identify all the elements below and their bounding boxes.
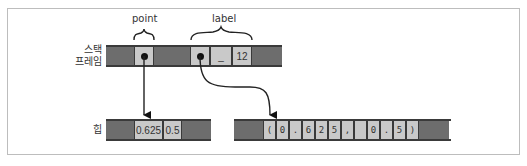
heap-label-char-cell: . [289, 121, 302, 139]
heap-cell-empty [106, 121, 134, 139]
heap-label-char-cell: 5 [328, 121, 341, 139]
stack-cell-point-pointer [134, 47, 154, 65]
heap-label-char-cell [354, 121, 367, 139]
stack-cell-empty [106, 47, 134, 65]
heap-label-char-cell: 2 [315, 121, 328, 139]
stack-frame-row: _ 12 [106, 45, 282, 67]
pointer-dot-icon [141, 53, 148, 60]
heap-cell-empty [419, 121, 449, 139]
stack-frame-label: 스택 프레임 [60, 44, 102, 68]
heap-label-char-cell: 5 [393, 121, 406, 139]
label-variable-label: label [212, 13, 236, 24]
point-variable-label: point [132, 13, 158, 24]
stack-frame-label-line1: 스택 [60, 44, 102, 56]
heap-label-char-cell: 6 [302, 121, 315, 139]
heap-label-char-cell: . [380, 121, 393, 139]
heap-row-label: (0.625, 0.5) [234, 119, 451, 141]
heap-label-char-cell: , [341, 121, 354, 139]
pointer-dot-icon [197, 53, 204, 60]
stack-cell-empty [252, 47, 282, 65]
stack-cell-label-capacity: _ [210, 47, 232, 65]
heap-cell-point-x: 0.625 [134, 121, 163, 139]
heap-cell-empty [234, 121, 263, 139]
heap-row-point: 0.625 0.5 [106, 119, 211, 141]
stack-cell-empty [154, 47, 190, 65]
heap-label: 힙 [60, 124, 102, 136]
heap-cell-empty [182, 121, 211, 139]
stack-cell-label-length: 12 [232, 47, 252, 65]
heap-cell-point-y: 0.5 [163, 121, 182, 139]
heap-label-char-cell: 0 [367, 121, 380, 139]
stack-frame-label-line2: 프레임 [60, 56, 102, 68]
heap-label-char-cell: ( [263, 121, 276, 139]
heap-label-string: (0.625, 0.5) [263, 121, 419, 139]
heap-label-char-cell: 0 [276, 121, 289, 139]
heap-label-char-cell: ) [406, 121, 419, 139]
stack-cell-label-pointer [190, 47, 210, 65]
